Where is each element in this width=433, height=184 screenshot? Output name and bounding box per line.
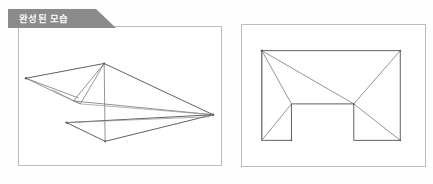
perspective-figure — [19, 27, 221, 165]
screenshot-root: 완성된 모습 — [0, 0, 433, 184]
section-header-label: 완성된 모습 — [8, 14, 68, 24]
vertex-net-bottom-right — [399, 139, 401, 141]
vertex-lower-left — [65, 121, 67, 123]
vertex-net-top-right — [399, 50, 401, 52]
perspective-view-panel — [18, 26, 222, 166]
vertex-net-top-left — [261, 49, 263, 51]
flat-net-figure — [242, 25, 425, 166]
vertex-apex — [103, 62, 105, 64]
vertex-net-center — [353, 103, 355, 105]
vertex-right-tip — [212, 114, 214, 116]
vertex-bottom-tip — [104, 140, 106, 142]
vertex-left-tip — [25, 77, 27, 79]
vertex-net-bottom-left — [290, 139, 292, 141]
section-header-tab: 완성된 모습 — [8, 9, 116, 28]
flat-net-panel — [241, 24, 426, 167]
